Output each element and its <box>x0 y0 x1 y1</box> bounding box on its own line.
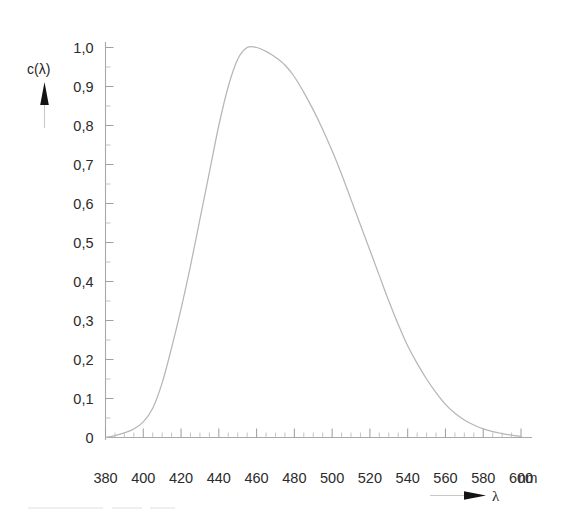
x-tick-label: 480 <box>282 470 306 486</box>
x-tick-label: 580 <box>471 470 495 486</box>
y-tick-label: 0,7 <box>73 157 93 173</box>
x-axis-title-group: λ <box>430 488 500 504</box>
arrow-up-icon <box>40 82 49 128</box>
x-tick-label: 540 <box>396 470 420 486</box>
y-axis-tick-labels: 1,00,90,80,70,60,50,40,30,20,10 <box>73 40 93 446</box>
y-tick-label: 0,3 <box>73 313 93 329</box>
x-axis-ticks <box>106 429 522 438</box>
y-tick-label: 0,4 <box>73 274 93 290</box>
y-axis-title: c(λ) <box>27 61 50 77</box>
y-tick-label: 0,1 <box>73 391 93 407</box>
x-tick-label: 460 <box>244 470 268 486</box>
y-tick-label: 0 <box>85 430 93 446</box>
x-tick-label: 560 <box>433 470 457 486</box>
y-tick-label: 0,9 <box>73 79 93 95</box>
y-tick-label: 0,5 <box>73 235 93 251</box>
y-tick-label: 0,6 <box>73 196 93 212</box>
y-axis-ticks <box>106 48 114 438</box>
x-tick-label: 380 <box>93 470 117 486</box>
scan-artifact <box>28 507 103 509</box>
x-axis-tick-labels: 380400420440460480500520540560580600 <box>93 470 533 486</box>
y-axis-title-group: c(λ) <box>27 61 50 128</box>
x-tick-label: 500 <box>320 470 344 486</box>
arrow-right-icon <box>430 491 486 500</box>
y-tick-label: 1,0 <box>73 40 93 56</box>
x-axis-title: λ <box>492 488 500 504</box>
x-tick-label: 420 <box>169 470 193 486</box>
y-axis: 1,00,90,80,70,60,50,40,30,20,10 <box>73 40 113 446</box>
y-tick-label: 0,2 <box>73 352 93 368</box>
y-tick-label: 0,8 <box>73 118 93 134</box>
scan-artifact <box>150 507 175 509</box>
spectral-curve-line <box>106 46 522 437</box>
x-axis: 380400420440460480500520540560580600 <box>93 429 533 486</box>
spectral-distribution-chart: 1,00,90,80,70,60,50,40,30,20,10 38040042… <box>0 0 566 521</box>
x-tick-label: 400 <box>131 470 155 486</box>
x-tick-label: 520 <box>358 470 382 486</box>
scan-artifact <box>112 507 142 509</box>
x-axis-unit-label: nm <box>518 470 537 486</box>
x-tick-label: 440 <box>207 470 231 486</box>
